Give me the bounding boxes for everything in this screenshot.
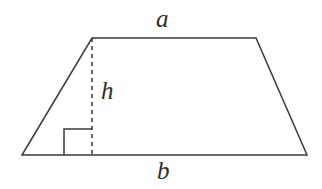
label-height-h: h bbox=[101, 78, 114, 103]
label-bottom-side-b: b bbox=[157, 158, 170, 183]
trapezoid-figure: a h b bbox=[0, 0, 322, 189]
label-top-side-a: a bbox=[156, 6, 169, 31]
right-angle-marker-icon bbox=[64, 129, 92, 155]
